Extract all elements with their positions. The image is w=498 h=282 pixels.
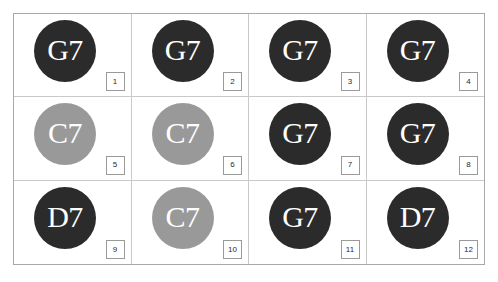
cell-number-label: 4 — [466, 78, 470, 86]
circle-badge-icon: G7 — [387, 103, 449, 165]
circle-badge-icon: D7 — [34, 187, 96, 249]
cell-number-box: 3 — [341, 72, 360, 91]
grid-cell[interactable]: G73 — [249, 14, 367, 97]
cell-number-label: 12 — [464, 246, 473, 254]
cell-number-label: 6 — [230, 161, 234, 169]
circle-badge-icon: C7 — [34, 103, 96, 165]
cell-number-box: 11 — [341, 240, 360, 259]
grid-cell[interactable]: C710 — [132, 181, 250, 264]
grid-cell[interactable]: G71 — [14, 14, 132, 97]
grid-cell[interactable]: D712 — [367, 181, 485, 264]
grid-cell[interactable]: G78 — [367, 97, 485, 180]
cell-number-label: 1 — [113, 78, 117, 86]
circle-badge-icon: G7 — [269, 20, 331, 82]
cell-number-label: 11 — [346, 246, 354, 254]
cell-number-label: 8 — [466, 161, 470, 169]
badge-label: G7 — [282, 35, 318, 65]
grid-cell[interactable]: G711 — [249, 181, 367, 264]
circle-badge-icon: G7 — [34, 20, 96, 82]
cell-number-label: 2 — [230, 78, 234, 86]
badge-label: C7 — [165, 118, 199, 148]
circle-badge-icon: C7 — [152, 103, 214, 165]
grid-cell[interactable]: C76 — [132, 97, 250, 180]
cell-number-label: 10 — [228, 246, 237, 254]
cell-number-box: 6 — [223, 156, 242, 175]
cell-number-box: 2 — [223, 72, 242, 91]
cell-number-box: 10 — [223, 240, 242, 259]
grid-cell[interactable]: D79 — [14, 181, 132, 264]
circle-badge-icon: C7 — [152, 187, 214, 249]
cell-number-label: 9 — [113, 246, 117, 254]
badge-label: G7 — [282, 202, 318, 232]
circle-badge-icon: G7 — [269, 103, 331, 165]
badge-label: G7 — [400, 35, 436, 65]
badge-label: G7 — [165, 35, 201, 65]
cell-number-box: 9 — [106, 240, 125, 259]
cell-number-box: 5 — [106, 156, 125, 175]
grid-cell[interactable]: C75 — [14, 97, 132, 180]
badge-label: G7 — [400, 118, 436, 148]
cell-number-label: 7 — [348, 161, 352, 169]
cell-number-box: 1 — [106, 72, 125, 91]
cell-number-box: 4 — [459, 72, 478, 91]
badge-label: D7 — [47, 202, 83, 232]
circle-badge-icon: G7 — [387, 20, 449, 82]
grid-cell[interactable]: G72 — [132, 14, 250, 97]
grid-cell[interactable]: G77 — [249, 97, 367, 180]
badge-grid: G71G72G73G74C75C76G77G78D79C710G711D712 — [13, 13, 485, 265]
badge-label: G7 — [282, 118, 318, 148]
cell-number-box: 12 — [459, 240, 478, 259]
circle-badge-icon: D7 — [387, 187, 449, 249]
cell-number-box: 7 — [341, 156, 360, 175]
page-root: G71G72G73G74C75C76G77G78D79C710G711D712 — [0, 0, 498, 282]
cell-number-box: 8 — [459, 156, 478, 175]
badge-label: C7 — [165, 202, 199, 232]
badge-label: D7 — [400, 202, 436, 232]
badge-label: C7 — [48, 118, 82, 148]
circle-badge-icon: G7 — [269, 187, 331, 249]
circle-badge-icon: G7 — [152, 20, 214, 82]
cell-number-label: 3 — [348, 78, 352, 86]
badge-label: G7 — [47, 35, 83, 65]
grid-cell[interactable]: G74 — [367, 14, 485, 97]
cell-number-label: 5 — [113, 161, 117, 169]
